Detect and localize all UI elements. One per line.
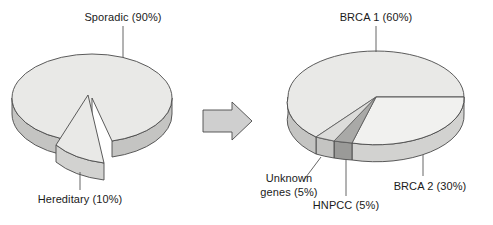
- hnpcc-label: HNPCC (5%): [313, 199, 379, 211]
- hnpcc-wedge-side: [334, 141, 352, 160]
- sporadic-label: Sporadic (90%): [84, 11, 161, 23]
- two-pie-chart-figure: Sporadic (90%) Hereditary (10%): [0, 0, 493, 225]
- unknown-genes-label-line1: Unknown: [266, 172, 313, 184]
- brca2-label: BRCA 2 (30%): [394, 180, 467, 192]
- hereditary-label: Hereditary (10%): [38, 193, 123, 205]
- unknown-genes-label-line2: genes (5%): [260, 186, 317, 198]
- figure-container: Sporadic (90%) Hereditary (10%): [0, 0, 493, 225]
- brca1-label: BRCA 1 (60%): [340, 11, 413, 23]
